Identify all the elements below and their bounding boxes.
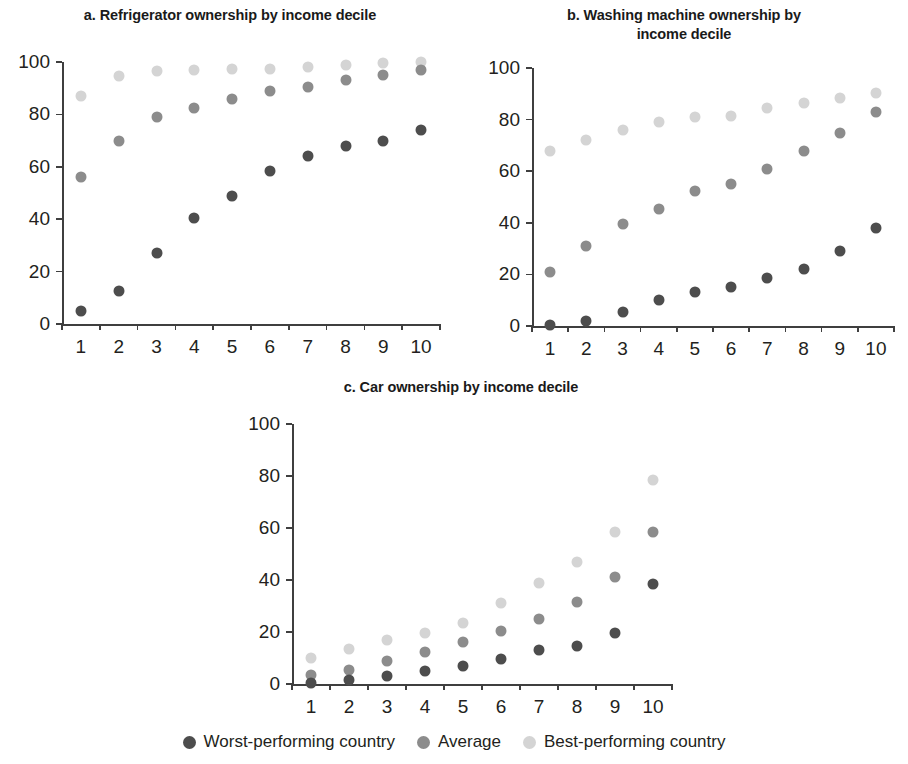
x-axis-tick [604,326,606,332]
data-point [344,664,355,675]
x-axis-tick-label: 2 [113,336,124,358]
y-axis-line [532,68,534,326]
data-point [834,127,845,138]
data-point [420,628,431,639]
x-axis-tick [212,324,214,330]
x-axis-tick-label: 5 [227,336,238,358]
y-axis-tick [56,114,62,116]
y-axis-tick-label: 100 [474,57,520,79]
x-axis-tick [250,324,252,330]
data-point [617,219,628,230]
data-point [762,273,773,284]
y-axis-tick [526,274,532,276]
data-point [762,102,773,113]
x-axis-tick [481,684,483,690]
data-point [306,677,317,688]
x-axis-tick-label: 2 [344,696,355,718]
y-axis-tick [286,631,292,633]
x-axis-tick-label: 9 [834,338,845,360]
x-axis-tick-label: 6 [265,336,276,358]
x-axis-tick [567,326,569,332]
y-axis-tick-label: 40 [474,212,520,234]
x-axis-tick-label: 4 [189,336,200,358]
data-point [420,646,431,657]
x-axis-tick-label: 9 [378,336,389,358]
x-axis-tick-label: 8 [572,696,583,718]
data-point [340,140,351,151]
y-axis-tick-label: 40 [234,569,280,591]
y-axis-tick [56,271,62,273]
data-point [378,135,389,146]
x-axis-tick-label: 6 [726,338,737,360]
x-axis-tick [748,326,750,332]
panel-title-line: b. Washing machine ownership by [460,6,908,25]
legend-item-label: Best-performing country [544,732,725,752]
x-axis-tick [326,324,328,330]
x-axis-tick-label: 10 [865,338,886,360]
data-point [344,643,355,654]
panel-title-a: a. Refrigerator ownership by income deci… [0,6,460,25]
panel-washing-machine: b. Washing machine ownership byincome de… [460,4,908,370]
data-point [189,64,200,75]
x-axis-tick [443,684,445,690]
data-point [344,675,355,686]
data-point [798,145,809,156]
data-point [420,666,431,677]
x-axis-tick-label: 5 [690,338,701,360]
data-point [798,97,809,108]
data-point [113,71,124,82]
data-point [545,319,556,330]
data-point [689,112,700,123]
data-point [870,106,881,117]
y-axis-tick [286,527,292,529]
y-axis-tick [286,423,292,425]
data-point [382,671,393,682]
x-axis-tick [99,324,101,330]
figure-container: a. Refrigerator ownership by income deci… [0,0,908,764]
x-axis-tick-label: 4 [420,696,431,718]
data-point [113,286,124,297]
x-axis-tick-label: 3 [382,696,393,718]
x-axis-tick-label: 8 [798,338,809,360]
data-point [151,66,162,77]
x-axis-tick [785,326,787,332]
y-axis-tick-label: 0 [4,313,50,335]
y-axis-tick-label: 80 [234,465,280,487]
x-axis-tick [519,684,521,690]
data-point [534,645,545,656]
data-point [189,212,200,223]
data-point [581,135,592,146]
legend-marker-worst-icon [183,736,196,749]
data-point [545,266,556,277]
data-point [75,172,86,183]
y-axis-tick [56,61,62,63]
y-axis-tick-label: 60 [234,517,280,539]
x-axis-tick [893,326,895,332]
data-point [648,474,659,485]
data-point [302,62,313,73]
data-point [762,163,773,174]
panel-title-line: income decile [460,25,908,44]
data-point [75,305,86,316]
data-point [572,641,583,652]
panel-title-b: b. Washing machine ownership byincome de… [460,6,908,44]
x-axis-tick-label: 5 [458,696,469,718]
y-axis-line [292,424,294,684]
data-point [227,190,238,201]
data-point [870,87,881,98]
y-axis-tick-label: 20 [234,621,280,643]
data-point [617,306,628,317]
x-axis-tick-label: 6 [496,696,507,718]
data-point [610,526,621,537]
legend-item: Average [417,732,501,752]
data-point [378,70,389,81]
panel-title-line: a. Refrigerator ownership by income deci… [0,6,460,25]
x-axis-tick-label: 4 [653,338,664,360]
data-point [264,63,275,74]
y-axis-tick [56,218,62,220]
x-axis-tick [676,326,678,332]
data-point [726,282,737,293]
data-point [378,58,389,69]
data-point [264,165,275,176]
data-point [113,135,124,146]
